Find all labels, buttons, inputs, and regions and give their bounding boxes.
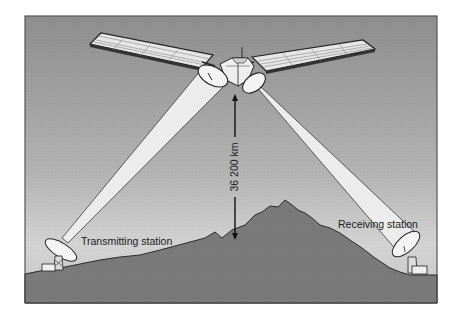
satellite-diagram: 36 200 km Transmitting station Receiving…: [0, 0, 454, 320]
distance-label: 36 200 km: [228, 142, 240, 191]
transmitting-station-label: Transmitting station: [81, 235, 172, 247]
receiving-station-label: Receiving station: [338, 218, 418, 230]
